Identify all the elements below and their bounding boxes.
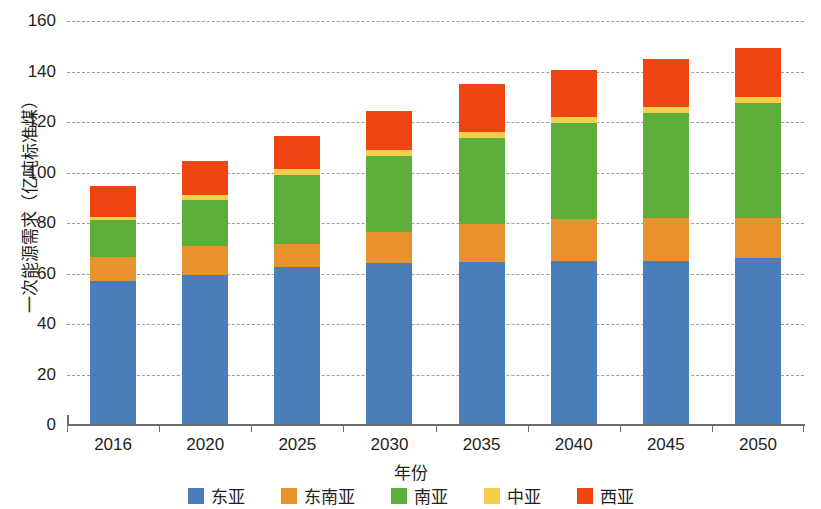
- y-tick-label: 80: [10, 214, 56, 231]
- legend-label: 东亚: [211, 483, 245, 508]
- x-tick-mark: [620, 424, 621, 432]
- bar-segment-东南亚[interactable]: [551, 219, 597, 261]
- legend-swatch-icon: [484, 488, 500, 504]
- x-axis-ticks: [67, 424, 804, 433]
- bar-segment-东亚[interactable]: [366, 263, 412, 425]
- x-tick-label-2035: 2035: [436, 435, 528, 455]
- y-tick-label: 60: [10, 265, 56, 282]
- x-tick-cell: [159, 424, 251, 433]
- bar-segment-东南亚[interactable]: [643, 218, 689, 261]
- x-tick-mark: [343, 424, 344, 432]
- bar-segment-东南亚[interactable]: [459, 224, 505, 262]
- bar-segment-西亚[interactable]: [90, 186, 136, 216]
- bar-group-2050[interactable]: [712, 21, 804, 425]
- y-tick-label: 20: [10, 366, 56, 383]
- x-tick-mark-end: [803, 424, 804, 432]
- x-tick-mark: [712, 424, 713, 432]
- bar-group-2025[interactable]: [251, 21, 343, 425]
- bar-stack[interactable]: [459, 84, 505, 425]
- bar-segment-南亚[interactable]: [90, 220, 136, 257]
- bar-group-2045[interactable]: [620, 21, 712, 425]
- bar-segment-东亚[interactable]: [643, 261, 689, 425]
- x-tick-mark: [528, 424, 529, 432]
- bar-segment-西亚[interactable]: [735, 48, 781, 97]
- x-tick-cell: [436, 424, 528, 433]
- bar-segment-西亚[interactable]: [551, 70, 597, 117]
- bar-segment-西亚[interactable]: [182, 161, 228, 195]
- stacked-bar-chart: 一次能源需求（亿吨标准煤） 020406080100120140160 2016…: [0, 0, 821, 509]
- bar-segment-东亚[interactable]: [182, 275, 228, 425]
- y-tick-label: 40: [10, 315, 56, 332]
- x-tick-mark: [67, 424, 68, 432]
- bars-layer: [67, 21, 804, 425]
- bar-segment-南亚[interactable]: [551, 123, 597, 219]
- legend-item-东亚[interactable]: 东亚: [188, 483, 245, 508]
- bar-segment-西亚[interactable]: [366, 111, 412, 150]
- x-tick-cell: [620, 424, 712, 433]
- bar-segment-南亚[interactable]: [366, 156, 412, 232]
- bar-segment-东南亚[interactable]: [274, 244, 320, 267]
- legend-label: 西亚: [600, 483, 634, 508]
- bar-segment-东亚[interactable]: [551, 261, 597, 425]
- bar-stack[interactable]: [643, 59, 689, 425]
- bar-segment-东南亚[interactable]: [366, 232, 412, 264]
- bar-group-2020[interactable]: [159, 21, 251, 425]
- x-tick-label-2020: 2020: [159, 435, 251, 455]
- bar-segment-东南亚[interactable]: [182, 246, 228, 275]
- bar-segment-西亚[interactable]: [459, 84, 505, 132]
- bar-group-2030[interactable]: [343, 21, 435, 425]
- x-tick-cell: [712, 424, 804, 433]
- bar-stack[interactable]: [735, 48, 781, 425]
- bar-segment-西亚[interactable]: [274, 136, 320, 169]
- legend-swatch-icon: [577, 488, 593, 504]
- x-tick-label-2030: 2030: [343, 435, 435, 455]
- legend-swatch-icon: [188, 488, 204, 504]
- y-axis-tick-labels: 020406080100120140160: [0, 21, 56, 425]
- bar-segment-东亚[interactable]: [274, 267, 320, 425]
- bar-segment-东亚[interactable]: [459, 262, 505, 425]
- y-tick-label: 120: [10, 113, 56, 130]
- x-tick-label-2016: 2016: [67, 435, 159, 455]
- bar-segment-东亚[interactable]: [735, 258, 781, 425]
- legend-label: 南亚: [414, 483, 448, 508]
- bar-group-2016[interactable]: [67, 21, 159, 425]
- bar-group-2035[interactable]: [436, 21, 528, 425]
- x-tick-cell: [528, 424, 620, 433]
- legend-swatch-icon: [391, 488, 407, 504]
- bar-stack[interactable]: [90, 186, 136, 425]
- bar-stack[interactable]: [366, 111, 412, 425]
- bar-segment-东南亚[interactable]: [735, 218, 781, 258]
- legend-swatch-icon: [281, 488, 297, 504]
- x-tick-label-2050: 2050: [712, 435, 804, 455]
- legend-label: 东南亚: [304, 483, 355, 508]
- legend-label: 中亚: [507, 483, 541, 508]
- x-tick-mark: [436, 424, 437, 432]
- legend-item-西亚[interactable]: 西亚: [577, 483, 634, 508]
- legend-item-南亚[interactable]: 南亚: [391, 483, 448, 508]
- bar-segment-东南亚[interactable]: [90, 257, 136, 281]
- y-tick-label: 140: [10, 63, 56, 80]
- x-tick-cell: [67, 424, 159, 433]
- bar-stack[interactable]: [551, 70, 597, 425]
- x-tick-label-2045: 2045: [620, 435, 712, 455]
- chart-legend: 东亚东南亚南亚中亚西亚: [0, 483, 821, 508]
- bar-segment-南亚[interactable]: [182, 200, 228, 245]
- y-tick-label: 100: [10, 164, 56, 181]
- bar-segment-南亚[interactable]: [643, 113, 689, 218]
- x-tick-mark: [159, 424, 160, 432]
- bar-segment-南亚[interactable]: [735, 103, 781, 218]
- x-axis-title: 年份: [0, 459, 821, 484]
- x-axis-tick-labels: 20162020202520302035204020452050: [67, 435, 804, 455]
- bar-group-2040[interactable]: [528, 21, 620, 425]
- bar-segment-南亚[interactable]: [459, 138, 505, 224]
- legend-item-中亚[interactable]: 中亚: [484, 483, 541, 508]
- x-tick-mark: [251, 424, 252, 432]
- x-tick-label-2025: 2025: [251, 435, 343, 455]
- bar-segment-南亚[interactable]: [274, 175, 320, 244]
- bar-segment-西亚[interactable]: [643, 59, 689, 107]
- bar-stack[interactable]: [182, 161, 228, 425]
- x-tick-cell: [251, 424, 343, 433]
- legend-item-东南亚[interactable]: 东南亚: [281, 483, 355, 508]
- bar-segment-东亚[interactable]: [90, 281, 136, 425]
- bar-stack[interactable]: [274, 136, 320, 425]
